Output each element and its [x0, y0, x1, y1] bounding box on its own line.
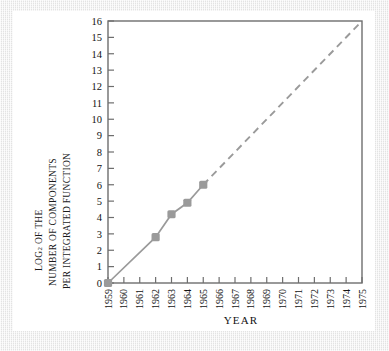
y-tick-label: 13	[92, 65, 103, 76]
data-point-marker	[152, 233, 160, 241]
x-tick-label: 1964	[182, 289, 193, 309]
x-tick-label: 1969	[261, 289, 272, 309]
y-tick-label: 10	[92, 114, 103, 125]
y-tick-label: 1	[97, 261, 102, 272]
data-point-marker	[183, 199, 191, 207]
moores-law-chart: 012345678910111213141516 195919601961196…	[13, 11, 375, 331]
x-tick-label: 1959	[103, 289, 114, 309]
x-tick-label: 1972	[309, 289, 320, 309]
data-series-layer	[104, 21, 362, 287]
x-tick-label: 1968	[245, 289, 256, 309]
y-tick-label: 7	[97, 163, 102, 174]
y-tick-label: 0	[97, 278, 102, 289]
y-tick-label: 15	[92, 32, 103, 43]
data-point-marker	[167, 210, 175, 218]
x-tick-label: 1974	[341, 289, 352, 309]
x-tick-label: 1963	[166, 289, 177, 309]
y-tick-label: 8	[97, 147, 102, 158]
x-tick-label: 1967	[230, 289, 241, 309]
x-tick-label: 1962	[150, 289, 161, 309]
y-tick-label: 11	[92, 98, 102, 109]
y-tick-label: 14	[92, 49, 103, 60]
x-tick-label: 1965	[198, 289, 209, 309]
y-tick-label: 5	[97, 196, 102, 207]
x-tick-label: 1966	[214, 289, 225, 309]
x-axis-ticks: 1959196019611962196319641965196619671968…	[103, 277, 368, 309]
x-tick-label: 1971	[293, 289, 304, 309]
x-axis-title: YEAR	[224, 314, 259, 326]
y-tick-label: 12	[92, 81, 103, 92]
y-tick-label: 3	[97, 229, 102, 240]
x-tick-label: 1960	[118, 289, 129, 309]
figure-panel: 012345678910111213141516 195919601961196…	[13, 11, 375, 331]
data-point-marker	[104, 279, 112, 287]
x-tick-label: 1961	[134, 289, 145, 309]
y-tick-label: 4	[97, 212, 103, 223]
series-line-extrapolation	[203, 21, 362, 185]
x-tick-label: 1970	[277, 289, 288, 309]
x-tick-label: 1973	[325, 289, 336, 309]
y-tick-label: 6	[97, 180, 102, 191]
x-tick-label: 1975	[357, 289, 368, 309]
y-tick-label: 9	[97, 130, 102, 141]
y-tick-label: 2	[97, 245, 102, 256]
y-tick-label: 16	[92, 16, 103, 27]
y-axis-ticks: 012345678910111213141516	[92, 16, 115, 289]
